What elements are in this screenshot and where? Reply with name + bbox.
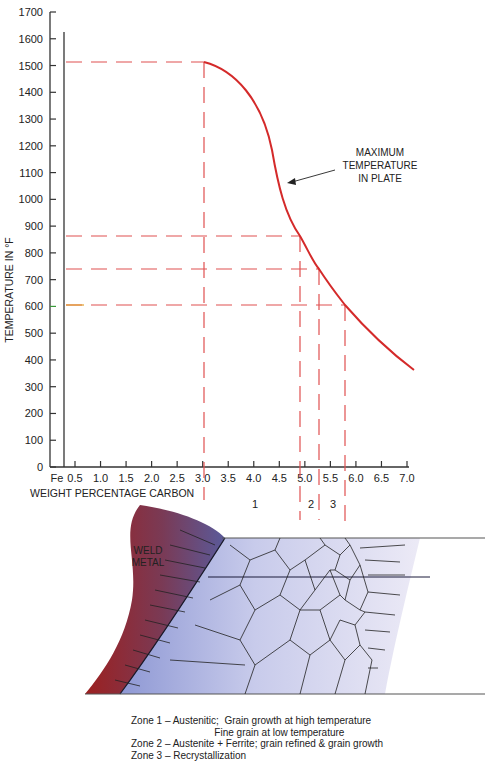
y-tick-label: 100 [25, 434, 43, 446]
y-tick-label: 300 [25, 381, 43, 393]
caption: Zone 1 – Austenitic; Grain growth at hig… [131, 715, 383, 761]
x-tick-label: 7.0 [399, 472, 414, 484]
weld-diagram: WELD METAL [85, 505, 485, 694]
zone-3-label: 3 [330, 498, 336, 510]
caption-line-4: Zone 3 – Recrystallization [131, 750, 383, 762]
y-tick-label: 1500 [19, 60, 43, 72]
weld-label-2: METAL [132, 557, 165, 568]
y-tick-label: 400 [25, 354, 43, 366]
x-tick-label: Fe [51, 472, 64, 484]
x-tick-label: 5.5 [323, 472, 338, 484]
y-tick-label: 1200 [19, 140, 43, 152]
x-tick-label: 6.5 [374, 472, 389, 484]
reference-lines [66, 62, 345, 525]
zone-2-label: 2 [308, 498, 314, 510]
y-tick-label: 1700 [19, 6, 43, 18]
y-tick-label: 500 [25, 327, 43, 339]
x-tick-label: 1.5 [118, 472, 133, 484]
annotation-line-3: IN PLATE [358, 173, 402, 184]
y-tick-label: 1100 [19, 167, 43, 179]
y-tick-label: 1400 [19, 86, 43, 98]
figure: 0100200300400500600700800900100011001200… [0, 0, 485, 766]
x-tick-label: 4.5 [272, 472, 287, 484]
x-tick-label: 1.0 [93, 472, 108, 484]
annotation-arrow [292, 170, 335, 182]
y-tick-label: 1000 [19, 193, 43, 205]
weld-label-1: WELD [134, 545, 163, 556]
caption-line-1: Zone 1 – Austenitic; Grain growth at hig… [131, 715, 383, 727]
annotation-line-2: TEMPERATURE [343, 160, 418, 171]
x-ticks: Fe0.51.01.52.02.53.03.54.04.55.05.56.06.… [51, 461, 415, 484]
x-tick-label: 6.0 [348, 472, 363, 484]
x-tick-label: 2.0 [144, 472, 159, 484]
x-tick-label: 0.5 [67, 472, 82, 484]
y-tick-label: 600 [25, 300, 43, 312]
y-tick-label: 200 [25, 407, 43, 419]
zone-1-label: 1 [252, 498, 258, 510]
x-tick-label: 3.0 [195, 472, 210, 484]
y-axis-title: TEMPERATURE IN °F [3, 237, 15, 343]
annotation-line-1: MAXIMUM [356, 147, 404, 158]
caption-line-2: Fine grain at low temperature [131, 727, 383, 739]
max-temperature-curve [204, 62, 414, 370]
y-tick-label: 1300 [19, 113, 43, 125]
y-tick-label: 800 [25, 247, 43, 259]
y-tick-label: 0 [37, 461, 43, 473]
caption-line-3: Zone 2 – Austenite + Ferrite; grain refi… [131, 738, 383, 750]
y-tick-label: 700 [25, 274, 43, 286]
y-tick-label: 1600 [19, 33, 43, 45]
x-tick-label: 3.5 [221, 472, 236, 484]
y-tick-label: 900 [25, 220, 43, 232]
arrow-head-icon [287, 178, 296, 185]
x-tick-label: 4.0 [246, 472, 261, 484]
x-axis-title: WEIGHT PERCENTAGE CARBON [30, 487, 194, 499]
x-tick-label: 2.5 [170, 472, 185, 484]
chart: 0100200300400500600700800900100011001200… [3, 6, 418, 525]
